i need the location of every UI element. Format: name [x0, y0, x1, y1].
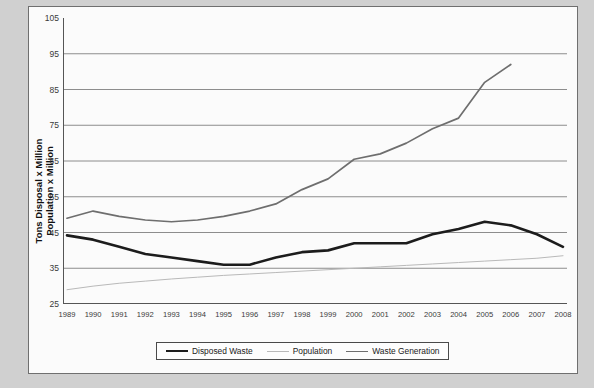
- legend-swatch-disposed-waste: [166, 350, 188, 352]
- chart-legend: Disposed Waste Population Waste Generati…: [156, 342, 449, 360]
- x-tick-label: 1990: [85, 310, 102, 319]
- y-tick-label: 55: [50, 192, 59, 202]
- legend-item-population: Population: [267, 346, 333, 356]
- x-tick-label: 1997: [267, 310, 284, 319]
- x-tick-label: 1995: [215, 310, 232, 319]
- y-tick-label: 65: [50, 156, 59, 166]
- y-tick-label: 85: [50, 85, 59, 95]
- series-line-disposed-waste: [67, 222, 563, 265]
- x-tick-label: 2002: [398, 310, 415, 319]
- y-tick-label: 105: [45, 13, 59, 23]
- y-axis-title-line-1: Tons Disposal x Million: [33, 139, 44, 244]
- x-tick-label: 2004: [450, 310, 467, 319]
- x-tick-label: 2000: [346, 310, 363, 319]
- y-tick-label: 45: [50, 228, 59, 238]
- chart-svg: [63, 18, 567, 304]
- x-tick-label: 1996: [241, 310, 258, 319]
- legend-item-waste-generation: Waste Generation: [346, 346, 439, 356]
- x-tick-label: 1992: [137, 310, 154, 319]
- legend-label-population: Population: [293, 346, 333, 356]
- legend-label-disposed-waste: Disposed Waste: [192, 346, 253, 356]
- series-line-waste-generation: [67, 64, 511, 221]
- y-tick-label: 25: [50, 299, 59, 309]
- x-tick-label: 1989: [59, 310, 76, 319]
- x-tick-label: 1991: [111, 310, 128, 319]
- x-tick-label: 2008: [555, 310, 572, 319]
- screenshot-page: Tons Disposal x Million Population x Mil…: [0, 0, 594, 388]
- x-tick-label: 2001: [372, 310, 389, 319]
- series-line-population: [67, 256, 563, 290]
- legend-item-disposed-waste: Disposed Waste: [166, 346, 253, 356]
- x-tick-label: 1998: [293, 310, 310, 319]
- x-tick-label: 2003: [424, 310, 441, 319]
- legend-swatch-population: [267, 351, 289, 352]
- x-tick-label: 1999: [320, 310, 337, 319]
- y-tick-label: 75: [50, 120, 59, 130]
- x-tick-label: 2005: [476, 310, 493, 319]
- chart-container: Tons Disposal x Million Population x Mil…: [28, 6, 578, 374]
- x-tick-label: 1994: [189, 310, 206, 319]
- legend-label-waste-generation: Waste Generation: [372, 346, 439, 356]
- y-tick-label: 35: [50, 263, 59, 273]
- legend-swatch-waste-generation: [346, 351, 368, 352]
- x-tick-label: 1993: [163, 310, 180, 319]
- y-tick-label: 95: [50, 49, 59, 59]
- plot-area: 2535455565758595105 19891990199119921993…: [63, 18, 567, 304]
- x-tick-label: 2006: [502, 310, 519, 319]
- x-tick-label: 2007: [528, 310, 545, 319]
